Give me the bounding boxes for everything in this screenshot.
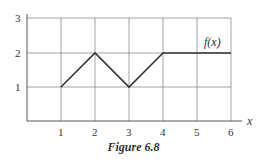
x-tick-2: 2: [92, 126, 98, 138]
x-tick-4: 4: [160, 126, 166, 138]
x-tick-1: 1: [58, 126, 64, 138]
y-tick-2: 2: [15, 47, 21, 59]
y-tick-1: 1: [15, 81, 21, 93]
x-tick-6: 6: [228, 126, 234, 138]
grid: [27, 18, 231, 121]
figure-caption: Figure 6.8: [0, 140, 267, 155]
function-label: f(x): [204, 35, 221, 49]
x-tick-5: 5: [194, 126, 200, 138]
x-tick-3: 3: [126, 126, 132, 138]
function-line: [61, 53, 231, 87]
y-tick-3: 3: [15, 12, 21, 24]
x-axis-label: x: [246, 114, 253, 128]
axes: [27, 14, 242, 121]
chart: 3 2 1 1 2 3 4 5 6 x f(x): [0, 0, 267, 163]
